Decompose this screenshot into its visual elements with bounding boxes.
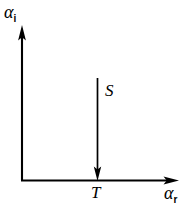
end-point-label-t: T: [91, 184, 100, 201]
alpha-plane-diagram: [0, 0, 193, 207]
x-axis-label-subscript: r: [173, 194, 177, 205]
start-point-label-s: S: [105, 82, 114, 99]
x-axis-label: αr: [164, 184, 177, 205]
figure-canvas: αi αr S T: [0, 0, 193, 207]
y-axis-label: αi: [4, 3, 16, 24]
y-axis-label-subscript: i: [13, 13, 16, 24]
